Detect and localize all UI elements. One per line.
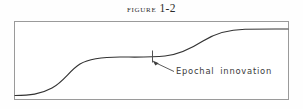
figure-caption-number: 1-2 <box>159 2 176 14</box>
figure-container: Figure1-2 Epochal innovation <box>0 0 303 109</box>
figure-caption-word: Figure <box>127 3 156 14</box>
annotation-label: Epochal innovation <box>176 66 272 76</box>
plot-frame <box>14 21 289 100</box>
figure-caption: Figure1-2 <box>0 2 303 15</box>
